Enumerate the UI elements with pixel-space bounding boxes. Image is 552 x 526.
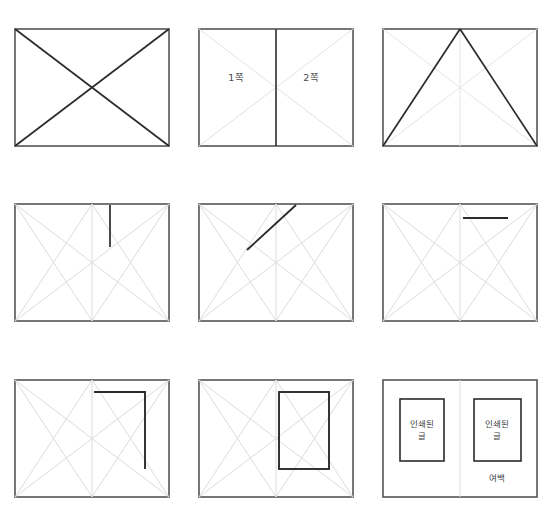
figure-8-textblock [198, 379, 354, 498]
figure-7-corner-mark [14, 379, 170, 498]
figure-cell-9: 인쇄된 글 인쇄된 글 여백 [368, 351, 552, 526]
figure-3-svg [382, 28, 538, 147]
figure-cell-4 [0, 175, 184, 350]
label-printed-text-right: 인쇄된 글 [485, 418, 509, 443]
figure-2-spread: 1쪽 2쪽 [198, 28, 354, 147]
figure-1-svg [14, 28, 170, 147]
figure-cell-2: 1쪽 2쪽 [184, 0, 368, 175]
label-printed-text-left: 인쇄된 글 [410, 418, 434, 443]
figure-4-svg [14, 203, 170, 322]
figure-cell-7 [0, 351, 184, 526]
figure-grid: 1쪽 2쪽 [0, 0, 552, 526]
figure-6-svg [382, 203, 538, 322]
figure-cell-6 [368, 175, 552, 350]
figure-5-svg [198, 203, 354, 322]
figure-9-final-spread: 인쇄된 글 인쇄된 글 여백 [382, 379, 538, 498]
figure-8-svg [198, 379, 354, 498]
figure-3-triangle [382, 28, 538, 147]
figure-4-vertical-mark [14, 203, 170, 322]
figure-cell-1 [0, 0, 184, 175]
figure-cell-8 [184, 351, 368, 526]
label-margin: 여백 [489, 472, 505, 484]
diagram-sheet: 1쪽 2쪽 [0, 0, 552, 526]
figure-1-diagonals [14, 28, 170, 147]
figure-9-svg [382, 379, 538, 498]
figure-7-svg [14, 379, 170, 498]
figure-cell-3 [368, 0, 552, 175]
figure-2-svg [198, 28, 354, 147]
figure-6-horizontal-mark [382, 203, 538, 322]
figure-5-diagonal-mark [198, 203, 354, 322]
figure-cell-5 [184, 175, 368, 350]
